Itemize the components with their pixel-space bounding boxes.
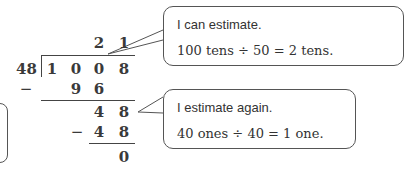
dividend-digit-ones: 8 xyxy=(117,62,131,77)
subtract-digit-hundreds: 9 xyxy=(69,82,83,97)
divisor: 48 xyxy=(16,62,36,77)
remainder-ones: 8 xyxy=(117,105,131,120)
division-bracket xyxy=(41,55,42,77)
minus-sign-2: − xyxy=(70,125,84,140)
final-remainder: 0 xyxy=(117,150,131,165)
partial-bubble xyxy=(0,103,8,163)
dividend-digit-tens: 0 xyxy=(92,62,106,77)
bubble-1-text-2: 100 tens ÷ 50 = 2 tens. xyxy=(177,43,333,58)
remainder-tens: 4 xyxy=(92,105,106,120)
dividend-digit-hundreds: 0 xyxy=(69,62,83,77)
speech-bubble-1: I can estimate. 100 tens ÷ 50 = 2 tens. xyxy=(163,6,404,66)
subtract2-ones: 8 xyxy=(117,125,131,140)
bubble-1-text-1: I can estimate. xyxy=(177,17,262,32)
subtraction-line-1 xyxy=(41,100,135,101)
bubble-2-text-2: 40 ones ÷ 40 = 1 one. xyxy=(177,126,324,141)
subtract2-tens: 4 xyxy=(92,125,106,140)
division-bar xyxy=(41,55,135,56)
quotient-tens: 2 xyxy=(92,36,106,51)
subtract-digit-tens: 6 xyxy=(92,82,106,97)
dividend-digit-thousands: 1 xyxy=(45,62,59,77)
speech-bubble-2: I estimate again. 40 ones ÷ 40 = 1 one. xyxy=(163,89,356,149)
bubble-2-text-1: I estimate again. xyxy=(177,100,272,115)
subtraction-line-2 xyxy=(89,143,135,144)
quotient-ones: 1 xyxy=(117,36,131,51)
minus-sign-1: − xyxy=(19,82,33,97)
